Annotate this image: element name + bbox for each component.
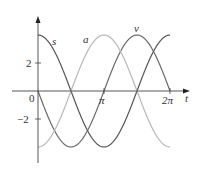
origin-label: 0: [29, 92, 35, 104]
y-axis-arrow-icon: [36, 16, 41, 23]
series-label-a: a: [83, 33, 89, 45]
x-tick-label-2pi: 2π: [162, 94, 174, 106]
y-tick-label-2: 2: [26, 57, 32, 69]
series-label-s: s: [52, 35, 56, 47]
x-tick-label-pi: π: [99, 94, 105, 106]
y-tick-label-neg2: −2: [17, 113, 29, 125]
motion-graph: 2 −2 0 π 2π t s a v: [0, 0, 206, 170]
x-axis-label: t: [185, 92, 189, 104]
series-label-v: v: [134, 22, 139, 34]
